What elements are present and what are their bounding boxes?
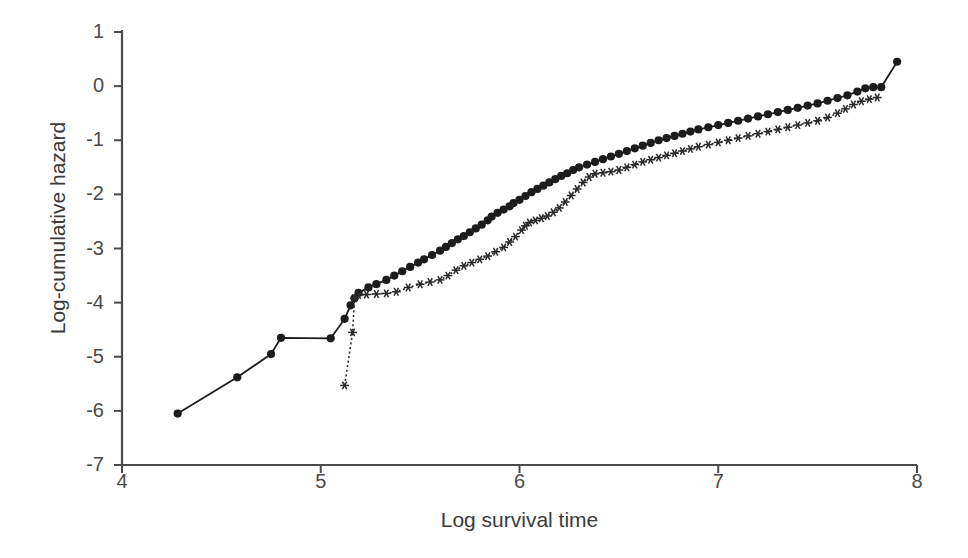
circle-marker xyxy=(372,280,380,288)
asterisk-marker xyxy=(638,158,647,166)
circle-marker xyxy=(843,91,851,99)
asterisk-marker xyxy=(773,126,782,134)
circle-marker xyxy=(591,158,599,166)
y-tick-label: 0 xyxy=(60,74,104,97)
asterisk-marker xyxy=(704,141,713,149)
circle-marker xyxy=(428,251,436,259)
series-line-group-asterisks xyxy=(345,98,878,386)
circle-marker xyxy=(364,283,372,291)
circle-marker xyxy=(327,334,335,342)
y-tick-label: -6 xyxy=(60,399,104,422)
asterisk-marker xyxy=(694,143,703,151)
circle-marker xyxy=(662,134,670,142)
y-tick-label: -5 xyxy=(60,345,104,368)
asterisk-marker xyxy=(630,161,639,169)
asterisk-marker xyxy=(622,164,631,172)
circle-marker xyxy=(406,263,414,271)
asterisk-marker xyxy=(764,128,773,136)
asterisk-marker xyxy=(662,152,671,160)
circle-marker xyxy=(382,276,390,284)
asterisk-marker xyxy=(857,97,866,105)
circle-marker xyxy=(877,83,885,91)
x-tick-label: 4 xyxy=(102,470,142,493)
asterisk-marker xyxy=(561,198,570,206)
x-tick-label: 5 xyxy=(301,470,341,493)
plot-area xyxy=(0,0,968,558)
circle-marker xyxy=(607,152,615,160)
asterisk-marker xyxy=(841,105,850,113)
x-tick-label: 7 xyxy=(698,470,738,493)
circle-marker xyxy=(754,112,762,120)
asterisk-marker xyxy=(754,130,763,138)
series-line-group-circles xyxy=(178,62,897,414)
asterisk-marker xyxy=(734,134,743,142)
circle-marker xyxy=(784,106,792,114)
circle-marker xyxy=(686,127,694,135)
asterisk-marker xyxy=(783,123,792,131)
asterisk-marker xyxy=(340,382,349,390)
x-tick-label: 6 xyxy=(500,470,540,493)
circle-marker xyxy=(233,373,241,381)
circle-marker xyxy=(734,117,742,125)
asterisk-marker xyxy=(459,262,468,270)
asterisk-marker xyxy=(362,291,371,299)
chart-canvas: Log-cumulative hazard Log survival time … xyxy=(0,0,968,558)
asterisk-marker xyxy=(505,238,514,246)
asterisk-marker xyxy=(499,244,508,252)
circle-marker xyxy=(174,409,182,417)
circle-marker xyxy=(774,108,782,116)
circle-marker xyxy=(823,97,831,105)
asterisk-marker xyxy=(670,149,679,157)
y-tick-label: -1 xyxy=(60,128,104,151)
x-tick-label: 8 xyxy=(897,470,937,493)
asterisk-marker xyxy=(579,179,588,187)
asterisk-marker xyxy=(452,266,461,274)
circle-marker xyxy=(704,123,712,131)
circle-marker xyxy=(655,136,663,144)
asterisk-marker xyxy=(607,168,616,176)
y-tick-label: -3 xyxy=(60,237,104,260)
y-tick-label: -7 xyxy=(60,453,104,476)
asterisk-marker xyxy=(793,121,802,129)
asterisk-marker xyxy=(416,280,425,288)
asterisk-marker xyxy=(724,136,733,144)
circle-marker xyxy=(346,301,354,309)
circle-marker xyxy=(724,119,732,127)
circle-marker xyxy=(583,161,591,169)
asterisk-marker xyxy=(392,288,401,296)
asterisk-marker xyxy=(744,132,753,140)
circle-marker xyxy=(599,155,607,163)
circle-marker xyxy=(341,315,349,323)
circle-marker xyxy=(833,94,841,102)
axes xyxy=(114,30,917,473)
circle-marker xyxy=(678,130,686,138)
asterisk-marker xyxy=(491,248,500,256)
circle-marker xyxy=(647,139,655,147)
y-tick-label: -2 xyxy=(60,182,104,205)
asterisk-marker xyxy=(426,278,435,286)
asterisk-marker xyxy=(567,192,576,200)
y-tick-label: 1 xyxy=(60,20,104,43)
asterisk-marker xyxy=(475,256,484,264)
asterisk-marker xyxy=(849,101,858,109)
asterisk-marker xyxy=(823,114,832,122)
asterisk-marker xyxy=(833,109,842,117)
asterisk-marker xyxy=(686,145,695,153)
circle-marker xyxy=(623,147,631,155)
circle-marker xyxy=(794,104,802,112)
circle-marker xyxy=(814,99,822,107)
circle-marker xyxy=(420,255,428,263)
asterisk-marker xyxy=(614,166,623,174)
circle-marker xyxy=(714,121,722,129)
asterisk-marker xyxy=(467,259,476,267)
y-tick-label: -4 xyxy=(60,291,104,314)
circle-marker xyxy=(267,350,275,358)
circle-marker xyxy=(744,115,752,123)
circle-marker xyxy=(869,83,877,91)
circle-marker xyxy=(670,132,678,140)
circle-marker xyxy=(277,334,285,342)
circle-marker xyxy=(694,125,702,133)
asterisk-marker xyxy=(382,290,391,298)
asterisk-marker xyxy=(873,94,882,102)
asterisk-marker xyxy=(813,117,822,125)
